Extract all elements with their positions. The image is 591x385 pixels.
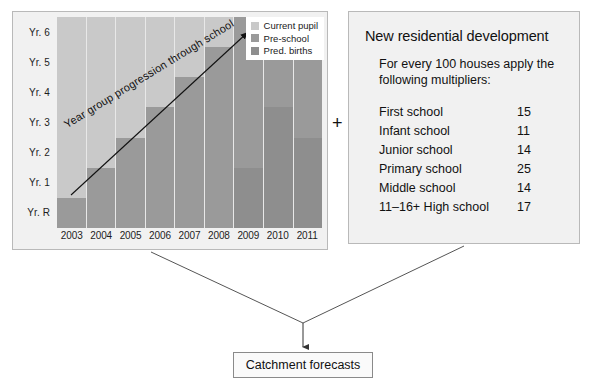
x-axis-label-2009: 2009 <box>234 230 263 246</box>
x-axis-label-2007: 2007 <box>175 230 204 246</box>
x-axis-label-2008: 2008 <box>204 230 233 246</box>
x-axis-label-2003: 2003 <box>57 230 86 246</box>
chart-segment-pred-births-2011 <box>294 138 323 228</box>
connector-line-chart <box>151 252 303 323</box>
chart-segment-pre-school-2007 <box>175 77 204 228</box>
year-group-chart-panel: Yr. 6 Yr. 5 Yr. 4 Yr. 3 Yr. 2 Yr. 1 Yr. … <box>12 11 328 250</box>
chart-segment-pre-school-2005 <box>116 138 145 228</box>
chart-column-2004 <box>87 17 117 228</box>
legend-swatch-pre-school-icon <box>251 34 259 42</box>
multiplier-value: 11 <box>517 123 559 142</box>
multiplier-label: First school <box>379 104 517 123</box>
chart-column-2006 <box>146 17 176 228</box>
legend-label-pre-school: Pre-school <box>264 34 309 44</box>
legend-swatch-current-pupil-icon <box>251 22 259 30</box>
legend-item-current-pupil: Current pupil <box>251 21 318 31</box>
legend-swatch-pred-births-icon <box>251 47 259 55</box>
multiplier-row: Junior school14 <box>379 142 559 161</box>
catchment-forecasts-box: Catchment forecasts <box>233 352 373 378</box>
multiplier-label: 11–16+ High school <box>379 199 517 218</box>
info-panel-title: New residential development <box>365 28 565 44</box>
chart-y-axis: Yr. 6 Yr. 5 Yr. 4 Yr. 3 Yr. 2 Yr. 1 Yr. … <box>13 17 57 228</box>
chart-segment-pre-school-2008 <box>205 47 234 228</box>
multiplier-value: 14 <box>517 180 559 199</box>
multiplier-label: Middle school <box>379 180 517 199</box>
x-axis-label-2005: 2005 <box>116 230 145 246</box>
multiplier-row: Middle school14 <box>379 180 559 199</box>
multiplier-value: 17 <box>517 199 559 218</box>
chart-segment-pre-school-2003 <box>57 198 86 228</box>
y-axis-label-yr2: Yr. 2 <box>13 138 57 168</box>
plus-operator: + <box>332 114 343 132</box>
y-axis-label-yr3: Yr. 3 <box>13 107 57 137</box>
chart-segment-pred-births-2010 <box>264 107 293 228</box>
chart-segment-pre-school-2006 <box>146 107 175 228</box>
multiplier-label: Infant school <box>379 123 517 142</box>
legend-label-pred-births: Pred. births <box>264 46 313 56</box>
y-axis-label-yrR: Yr. R <box>13 198 57 228</box>
multiplier-row: First school15 <box>379 104 559 123</box>
x-axis-label-2011: 2011 <box>293 230 322 246</box>
y-axis-label-yr1: Yr. 1 <box>13 168 57 198</box>
chart-legend: Current pupil Pre-school Pred. births <box>246 17 324 60</box>
multipliers-table-body: First school15Infant school11Junior scho… <box>379 104 559 218</box>
multiplier-label: Primary school <box>379 161 517 180</box>
multiplier-value: 14 <box>517 142 559 161</box>
chart-x-axis: 2003 2004 2005 2006 2007 2008 2009 2010 … <box>57 230 322 246</box>
y-axis-label-yr4: Yr. 4 <box>13 77 57 107</box>
y-axis-label-yr5: Yr. 5 <box>13 47 57 77</box>
x-axis-label-2006: 2006 <box>145 230 174 246</box>
legend-item-pre-school: Pre-school <box>251 34 318 44</box>
multiplier-value: 15 <box>517 104 559 123</box>
legend-item-pred-births: Pred. births <box>251 46 318 56</box>
multiplier-value: 25 <box>517 161 559 180</box>
multiplier-label: Junior school <box>379 142 517 161</box>
chart-column-2008 <box>205 17 235 228</box>
new-residential-development-panel: New residential development For every 10… <box>348 11 580 244</box>
connector-line-info <box>303 246 464 323</box>
chart-segment-pred-births-2009 <box>234 168 263 228</box>
info-panel-subtitle: For every 100 houses apply the following… <box>379 56 565 88</box>
multiplier-row: Infant school11 <box>379 123 559 142</box>
multiplier-row: 11–16+ High school17 <box>379 199 559 218</box>
x-axis-label-2004: 2004 <box>86 230 115 246</box>
legend-label-current-pupil: Current pupil <box>264 21 318 31</box>
x-axis-label-2010: 2010 <box>263 230 292 246</box>
multiplier-row: Primary school25 <box>379 161 559 180</box>
chart-segment-pre-school-2004 <box>87 168 116 228</box>
y-axis-label-yr6: Yr. 6 <box>13 17 57 47</box>
chart-column-2005 <box>116 17 146 228</box>
catchment-forecasts-label: Catchment forecasts <box>246 358 361 372</box>
multipliers-table: First school15Infant school11Junior scho… <box>379 104 559 218</box>
